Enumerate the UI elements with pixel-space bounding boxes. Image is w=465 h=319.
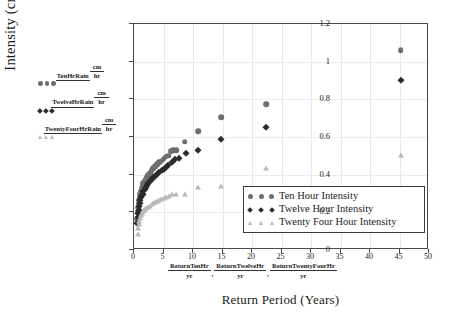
x-variable-denominator: yr: [214, 271, 266, 279]
y-axis-tick-label: 0.4: [308, 169, 330, 179]
circle-icon: [38, 81, 43, 86]
triangle-icon: [248, 221, 252, 225]
series-key-numerator: TwelveHrRain: [51, 98, 94, 107]
diamond-icon: [258, 207, 264, 213]
gridline-vertical: [223, 24, 224, 248]
x-axis-tick-mark: [369, 249, 370, 253]
y-axis-title: Intensity (cm/hr): [2, 0, 24, 100]
diamond-icon: [269, 207, 275, 213]
series-key-row: TwelveHrRaincmhr: [34, 89, 126, 115]
x-axis-tick-label: 30: [298, 252, 322, 261]
diamond-icon: [49, 108, 54, 113]
circle-icon: [269, 194, 274, 199]
series-key-row: TenHrRaincmhr: [34, 62, 126, 88]
series-key-markers: [34, 81, 126, 88]
y-axis-tick-label: 1.2: [308, 18, 330, 28]
gridline-vertical: [193, 24, 194, 248]
data-point: [195, 147, 201, 153]
x-axis-tick-label: 35: [328, 252, 352, 261]
y-axis-tick-label: 0.6: [308, 131, 330, 141]
legend-marker-swatch: [248, 208, 274, 212]
x-axis-tick-label: 5: [151, 252, 175, 261]
x-axis-tick-mark: [428, 249, 429, 253]
series-key-markers: [34, 134, 126, 141]
x-variable-labels: ReturnTenHryr,ReturnTwelveHryr,ReturnTwe…: [168, 262, 433, 279]
y-axis-tick-mark: [129, 174, 133, 175]
x-axis-tick-label: 50: [416, 252, 440, 261]
x-variable-label: ReturnTwelveHryr: [214, 262, 266, 279]
data-point: [195, 184, 201, 189]
legend-entry: Twelve Hour Intensity: [248, 203, 420, 216]
data-point: [218, 183, 224, 188]
legend-label: Twenty Four Hour Intensity: [279, 217, 396, 228]
circle-icon: [248, 194, 253, 199]
data-point: [196, 129, 202, 135]
x-axis-tick-mark: [399, 249, 400, 253]
x-axis-tick-label: 10: [180, 252, 204, 261]
x-axis-tick-label: 25: [269, 252, 293, 261]
x-axis-tick-label: 45: [387, 252, 411, 261]
series-key-units: cmhr: [90, 62, 104, 80]
x-axis-tick-mark: [281, 249, 282, 253]
x-axis-tick-label: 40: [357, 252, 381, 261]
legend-marker-swatch: [248, 194, 274, 199]
x-axis-tick-label: 15: [210, 252, 234, 261]
diamond-icon: [43, 108, 48, 113]
series-key-units: cmhr: [94, 89, 108, 107]
y-axis-tick-label: 0.2: [308, 206, 330, 216]
series-key-numerator: TenHrRain: [56, 72, 90, 81]
x-axis-tick-label: 0: [121, 252, 145, 261]
data-point: [398, 48, 404, 54]
x-axis-tick-label: 20: [239, 252, 263, 261]
gridline-vertical: [164, 24, 165, 248]
x-axis-tick-mark: [251, 249, 252, 253]
circle-icon: [259, 194, 264, 199]
x-variable-denominator: yr: [270, 271, 337, 279]
chart-legend: Ten Hour IntensityTwelve Hour IntensityT…: [243, 186, 425, 233]
series-key-markers: [34, 108, 126, 115]
x-axis-title: Return Period (Years): [133, 292, 428, 308]
x-axis-tick-mark: [222, 249, 223, 253]
circle-icon: [51, 81, 56, 86]
series-key: TenHrRaincmhrTwelveHrRaincmhrTwentyFourH…: [34, 62, 126, 142]
legend-marker-swatch: [248, 221, 274, 225]
y-axis-tick-mark: [129, 23, 133, 24]
triangle-icon: [38, 135, 42, 139]
data-point: [135, 231, 141, 236]
legend-label: Ten Hour Intensity: [279, 191, 358, 202]
triangle-icon: [259, 221, 263, 225]
data-point: [183, 150, 189, 156]
triangle-icon: [44, 135, 48, 139]
y-axis-tick-label: 1: [308, 56, 330, 66]
diamond-icon: [247, 207, 253, 213]
x-axis-tick-mark: [133, 249, 134, 253]
gridline-horizontal: [134, 175, 427, 176]
x-axis-tick-mark: [163, 249, 164, 253]
x-variable-denominator: yr: [168, 271, 211, 279]
series-key-numerator: TwentyFourHrRain: [44, 125, 102, 134]
x-variable-numerator: ReturnTwelveHr: [214, 262, 266, 271]
x-axis-tick-mark: [192, 249, 193, 253]
x-variable-label: ReturnTwentyFourHryr: [270, 262, 337, 279]
triangle-icon: [50, 135, 54, 139]
data-point: [263, 166, 269, 171]
data-point: [135, 226, 141, 231]
diamond-icon: [37, 108, 42, 113]
x-variable-numerator: ReturnTwentyFourHr: [270, 262, 337, 271]
x-axis-tick-mark: [310, 249, 311, 253]
data-point: [263, 123, 269, 129]
series-key-units: cmhr: [102, 115, 116, 133]
gridline-horizontal: [134, 137, 427, 138]
gridline-horizontal: [134, 62, 427, 63]
circle-icon: [45, 81, 50, 86]
gridline-horizontal: [134, 99, 427, 100]
data-point: [174, 147, 180, 153]
series-key-row: TwentyFourHrRaincmhr: [34, 115, 126, 141]
y-axis-tick-mark: [129, 211, 133, 212]
legend-entry: Twenty Four Hour Intensity: [248, 216, 420, 229]
x-variable-numerator: ReturnTenHr: [168, 262, 211, 271]
data-point: [397, 76, 403, 82]
triangle-icon: [270, 221, 274, 225]
x-variable-label: ReturnTenHryr: [168, 262, 211, 279]
data-point: [398, 152, 404, 157]
